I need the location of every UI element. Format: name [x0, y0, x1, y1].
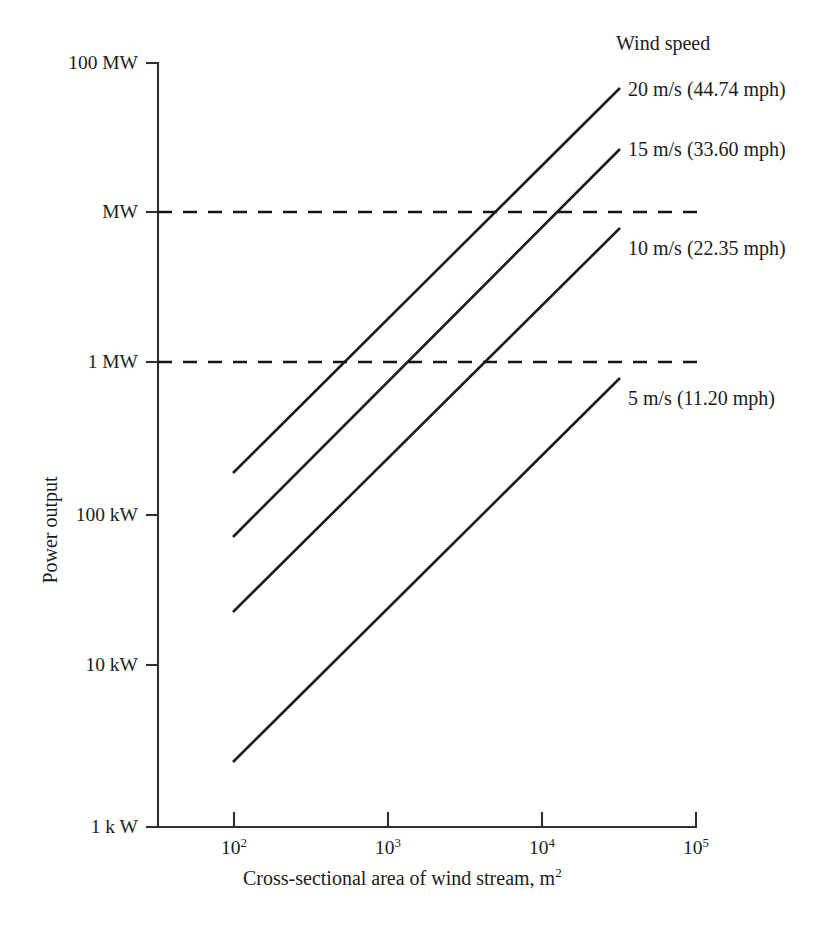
series-line-10ms	[233, 228, 620, 612]
x-tick-label-1e5: 105	[683, 838, 709, 858]
x-tick-label-1e5-base: 10	[683, 837, 703, 858]
x-axis-title-text: Cross-sectional area of wind stream, m	[243, 867, 555, 889]
x-axis-ticks	[234, 812, 696, 827]
series-label-15ms: 15 m/s (33.60 mph)	[628, 139, 786, 159]
x-axis-title: Cross-sectional area of wind stream, m2	[243, 868, 562, 888]
y-tick-label-100kw: 100 kW	[0, 505, 138, 525]
y-tick-label-1mw: 1 MW	[0, 352, 138, 372]
series-label-20ms: 20 m/s (44.74 mph)	[628, 79, 786, 99]
x-axis-title-superscript: 2	[555, 865, 562, 880]
x-tick-label-1e3: 103	[375, 838, 401, 858]
series-label-5ms: 5 m/s (11.20 mph)	[628, 388, 775, 408]
x-tick-label-1e2: 102	[221, 838, 247, 858]
axis-frame	[158, 63, 696, 827]
x-tick-label-1e2-exp: 2	[241, 836, 247, 850]
legend-title: Wind speed	[616, 33, 710, 53]
series-line-5ms	[233, 378, 620, 762]
x-tick-label-1e3-base: 10	[375, 837, 395, 858]
x-tick-label-1e4-base: 10	[529, 837, 549, 858]
x-tick-label-1e3-exp: 3	[395, 836, 401, 850]
reference-guides	[158, 212, 706, 362]
y-axis-ticks	[146, 63, 158, 827]
series-line-15ms	[233, 149, 620, 537]
y-tick-label-100mw: 100 MW	[0, 53, 138, 73]
series-label-10ms: 10 m/s (22.35 mph)	[628, 238, 786, 258]
series-line-20ms	[233, 88, 620, 473]
y-tick-label-10mw: MW	[0, 202, 138, 222]
y-tick-label-1kw: 1 k W	[0, 817, 138, 837]
y-tick-label-10kw: 10 kW	[0, 655, 138, 675]
wind-power-chart-figure: 100 MW MW 1 MW 100 kW 10 kW 1 k W 102 10…	[0, 0, 827, 930]
x-tick-label-1e5-exp: 5	[703, 836, 709, 850]
data-series-group	[233, 88, 620, 762]
x-tick-label-1e4-exp: 4	[549, 836, 555, 850]
x-tick-label-1e4: 104	[529, 838, 555, 858]
y-axis-title: Power output	[40, 450, 60, 610]
x-tick-label-1e2-base: 10	[221, 837, 241, 858]
